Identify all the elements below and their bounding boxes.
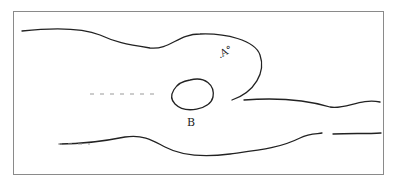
flow-diagram — [0, 0, 397, 182]
upper-streamline — [22, 29, 262, 100]
lower-right-streamline — [333, 133, 381, 134]
obstacle-circle — [172, 79, 213, 110]
obstacle-label: B — [187, 116, 195, 129]
mid-right-streamline — [244, 99, 380, 108]
lower-streamline — [60, 133, 322, 156]
